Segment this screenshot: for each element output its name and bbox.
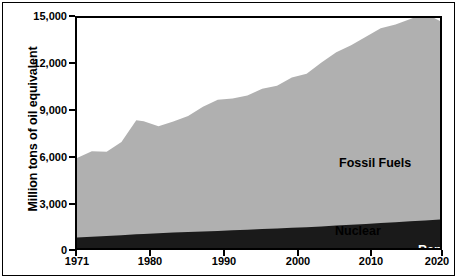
x-tick-label-2020: 2020 (425, 255, 449, 267)
y-tick-label-6000: 6,000 (39, 151, 67, 163)
x-tick-label-2010: 2010 (359, 255, 383, 267)
x-tick-label-1980: 1980 (138, 255, 162, 267)
plot-area: Fossil Fuels Nuclear Renewables (75, 16, 442, 250)
area-series-group (77, 18, 440, 248)
chart-figure: Million tons of oil equivalent 15,000 12… (0, 0, 458, 279)
area-fossil-fuels (77, 18, 440, 248)
series-label-nuclear: Nuclear (335, 224, 381, 238)
x-tick-label-1990: 1990 (212, 255, 236, 267)
y-tick-label-12000: 12,000 (33, 57, 67, 69)
y-tick-label-3000: 3,000 (39, 198, 67, 210)
stacked-area-plot (77, 18, 440, 248)
series-label-renewables: Renewables (418, 243, 442, 250)
y-tick-label-15000: 15,000 (33, 10, 67, 22)
x-tick-label-2000: 2000 (286, 255, 310, 267)
y-axis-tick-labels: 15,000 12,000 9,000 6,000 3,000 0 (0, 0, 67, 279)
y-tick-label-9000: 9,000 (39, 104, 67, 116)
x-tick-label-1971: 1971 (65, 255, 89, 267)
series-label-fossil-fuels: Fossil Fuels (339, 156, 411, 170)
